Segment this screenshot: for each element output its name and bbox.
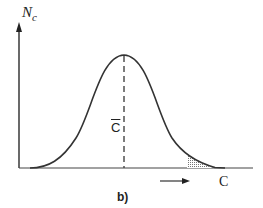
y-axis-arrow-icon bbox=[16, 22, 22, 32]
bell-curve bbox=[30, 55, 225, 168]
mean-label: C bbox=[111, 120, 120, 135]
x-axis-label: C bbox=[219, 174, 228, 190]
y-axis-label: Nc bbox=[22, 4, 37, 23]
arrow-right-icon bbox=[182, 178, 190, 184]
figure-caption: b) bbox=[117, 190, 128, 204]
